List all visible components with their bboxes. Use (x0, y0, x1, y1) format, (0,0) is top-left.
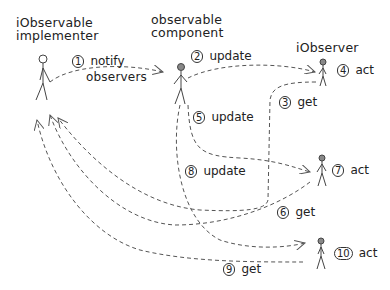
step-number-badge: 2 (191, 50, 203, 63)
step-7: 7 act (332, 164, 369, 177)
step-1-label-line2: observers (86, 71, 147, 84)
step-10: 10 act (334, 247, 377, 260)
step-label: update (203, 165, 245, 178)
stick-figure-icon (317, 155, 326, 186)
arrow-get-3 (37, 120, 303, 262)
actor-component-label: observable component (151, 13, 224, 39)
step-8: 8 update (185, 165, 246, 178)
step-number-badge: 9 (223, 263, 235, 276)
arrow-update-1 (188, 65, 315, 78)
step-number-badge: 4 (337, 64, 349, 77)
step-number-badge: 8 (185, 165, 197, 178)
step-5: 5 update (193, 111, 254, 124)
step-number-badge: 1 (72, 55, 84, 68)
step-label: act (359, 247, 378, 260)
arrow-get-2 (50, 115, 310, 225)
actor-component-line2: component (151, 26, 224, 39)
step-number-badge: 7 (332, 164, 344, 177)
arrow-get-1 (58, 82, 316, 211)
step-number-badge: 6 (277, 206, 289, 219)
actor-implementer-line2: implementer (16, 29, 98, 42)
stick-figure-icon (317, 238, 325, 269)
step-label: update (209, 50, 251, 63)
step-6: 6 get (277, 206, 315, 219)
step-label: get (241, 263, 261, 276)
step-2: 2 update (191, 50, 252, 63)
step-label: notify (90, 55, 124, 68)
step-9: 9 get (223, 263, 261, 276)
stick-figure-icon (36, 55, 50, 100)
step-number-badge: 10 (334, 247, 353, 260)
actor-observer-label: iObserver (296, 41, 359, 54)
step-3: 3 get (279, 96, 317, 109)
step-label: update (211, 111, 253, 124)
step-1: 1 notify (72, 55, 124, 68)
step-label: act (350, 164, 369, 177)
step-label: get (295, 206, 315, 219)
actor-implementer-label: iObservable implementer (16, 16, 98, 42)
step-number-badge: 3 (279, 96, 291, 109)
step-4: 4 act (337, 64, 374, 77)
step-number-badge: 5 (193, 111, 205, 124)
step-label: act (355, 64, 374, 77)
stick-figure-icon (319, 59, 326, 86)
stick-figure-icon (174, 64, 187, 105)
step-label: get (297, 96, 317, 109)
